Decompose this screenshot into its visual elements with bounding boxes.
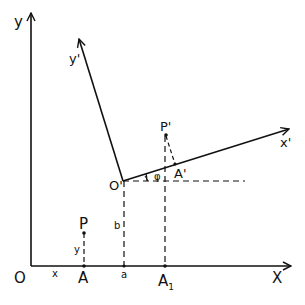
a-prime-label: A' — [174, 166, 186, 181]
p-prime-label: P' — [160, 119, 171, 134]
y-prime-axis — [79, 39, 123, 181]
x-prime-axis-label: x' — [280, 135, 291, 150]
a-label: A — [78, 269, 89, 287]
o-prime-label: O' — [109, 178, 123, 193]
segment-b-label: b — [114, 220, 120, 231]
coordinate-transformation-diagram: y X O y' x' O' P' A' P A A1 x y a b φ — [0, 0, 305, 305]
point-a-small — [122, 264, 125, 267]
dashed-p-prime-a-prime — [166, 136, 175, 164]
x-prime-axis — [123, 129, 289, 181]
origin-label: O — [14, 269, 26, 287]
segment-x-label: x — [52, 268, 58, 279]
segment-a-label: a — [121, 269, 127, 280]
angle-phi-label: φ — [154, 171, 161, 182]
p-label: P — [79, 215, 88, 233]
a1-subscript: 1 — [168, 282, 174, 292]
point-a1 — [163, 264, 167, 268]
y-axis-label: y — [14, 13, 23, 31]
x-axis-label: X — [272, 269, 282, 287]
point-a — [82, 264, 86, 268]
a1-label: A1 — [158, 272, 174, 292]
y-prime-axis-label: y' — [69, 51, 80, 66]
segment-y-label: y — [74, 244, 80, 255]
